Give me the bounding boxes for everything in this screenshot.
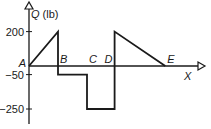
shear-line [29,32,165,109]
y-tick-label: 200 [6,26,24,38]
y-tick-label: −50 [5,69,24,81]
shear-diagram: 200−50−250ABCDEQ (lb)X [0,0,211,129]
point-label-b: B [60,53,67,65]
point-label-d: D [105,53,113,65]
point-label-a: A [18,57,26,69]
point-label-e: E [167,53,175,65]
x-axis-arrow [198,62,205,70]
y-tick-label: −250 [0,103,24,115]
y-axis-label: Q (lb) [31,8,59,20]
x-axis-label: X [183,70,192,82]
point-label-c: C [89,53,97,65]
